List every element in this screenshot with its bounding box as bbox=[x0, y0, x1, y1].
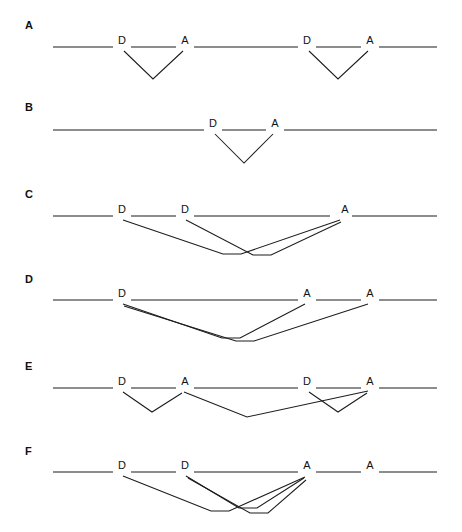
panel-letter-e: E bbox=[25, 360, 32, 372]
node-label-acceptor: A bbox=[303, 459, 311, 471]
node-label-acceptor: A bbox=[366, 459, 374, 471]
panel-b: B D A bbox=[25, 101, 437, 163]
loop-path bbox=[215, 134, 273, 163]
panel-letter-b: B bbox=[25, 101, 33, 113]
panel-c-labels: D D A bbox=[118, 203, 349, 215]
node-label-donor: D bbox=[181, 203, 189, 215]
loop-path bbox=[123, 392, 182, 412]
panel-d-labels: D A A bbox=[118, 287, 374, 299]
node-label-donor: D bbox=[118, 203, 126, 215]
loop-path bbox=[124, 51, 183, 79]
panel-a-labels: D A D A bbox=[118, 34, 374, 46]
node-label-donor: D bbox=[303, 34, 311, 46]
node-label-donor: D bbox=[118, 459, 126, 471]
panel-letter-d: D bbox=[25, 273, 33, 285]
panel-letter-c: C bbox=[25, 188, 33, 200]
panel-f-labels: D D A A bbox=[118, 459, 374, 471]
node-label-donor: D bbox=[303, 375, 311, 387]
panel-e-loops bbox=[123, 391, 368, 417]
panel-f: F D D A A bbox=[25, 445, 437, 513]
panel-letter-f: F bbox=[25, 445, 32, 457]
schematic-diagram-canvas: A D A D A B bbox=[0, 0, 462, 532]
panel-b-labels: D A bbox=[209, 117, 279, 129]
node-label-acceptor: A bbox=[181, 34, 189, 46]
panel-letter-a: A bbox=[25, 19, 33, 31]
panel-c: C D D A bbox=[25, 188, 437, 255]
loop-path bbox=[123, 220, 340, 254]
panel-b-loops bbox=[215, 134, 273, 163]
node-label-acceptor: A bbox=[366, 375, 374, 387]
node-label-acceptor: A bbox=[303, 287, 311, 299]
panel-e-labels: D A D A bbox=[118, 375, 374, 387]
node-label-donor: D bbox=[209, 117, 217, 129]
figure-container: A D A D A B bbox=[0, 0, 462, 532]
panel-d: D D A A bbox=[25, 273, 437, 341]
node-label-donor: D bbox=[118, 375, 126, 387]
panel-c-loops bbox=[123, 220, 341, 255]
node-label-donor: D bbox=[181, 459, 189, 471]
node-label-acceptor: A bbox=[271, 117, 279, 129]
node-label-acceptor: A bbox=[366, 287, 374, 299]
panel-a: A D A D A bbox=[25, 19, 437, 79]
node-label-donor: D bbox=[118, 287, 126, 299]
loop-path bbox=[309, 51, 368, 79]
node-label-acceptor: A bbox=[181, 375, 189, 387]
panel-f-loops bbox=[123, 476, 306, 513]
loop-path bbox=[186, 476, 304, 508]
loop-path-long-range bbox=[184, 391, 368, 417]
panel-d-loops bbox=[123, 304, 368, 341]
node-label-acceptor: A bbox=[366, 34, 374, 46]
panel-a-loops bbox=[124, 51, 368, 79]
panel-e: E D A D A bbox=[25, 360, 437, 417]
node-label-donor: D bbox=[118, 34, 126, 46]
node-label-acceptor: A bbox=[341, 203, 349, 215]
